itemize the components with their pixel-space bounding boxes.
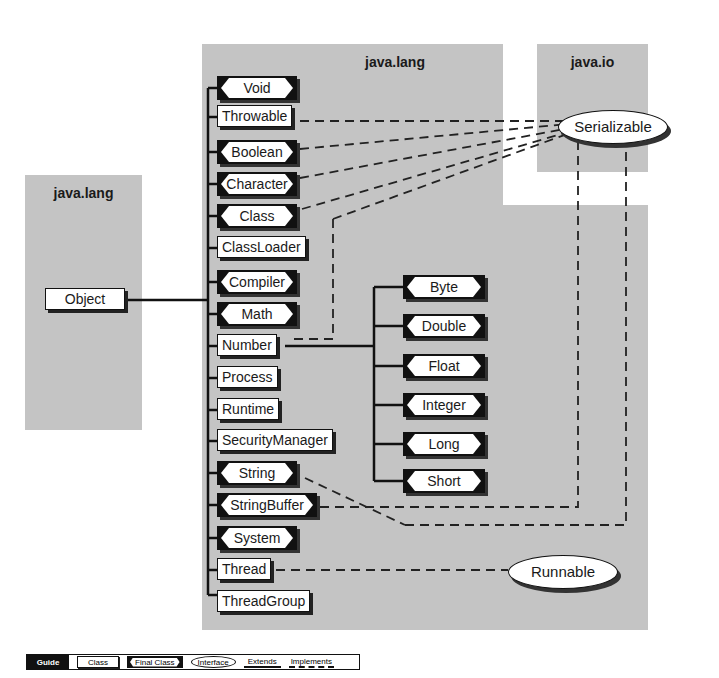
final-class-character[interactable]: Character: [217, 172, 297, 196]
interface-serializable[interactable]: Serializable: [558, 110, 668, 144]
legend-extends: Extends: [244, 656, 281, 668]
final-class-compiler[interactable]: Compiler: [217, 270, 297, 294]
class-runtime[interactable]: Runtime: [217, 398, 279, 420]
class-classloader[interactable]: ClassLoader: [217, 236, 306, 258]
class-number[interactable]: Number: [217, 334, 277, 356]
legend-implements: Implements: [289, 656, 334, 668]
interface-runnable[interactable]: Runnable: [508, 555, 618, 589]
class-thread[interactable]: Thread: [217, 558, 271, 580]
class-object[interactable]: Object: [45, 288, 125, 310]
final-class-string[interactable]: String: [217, 461, 297, 485]
final-class-stringbuffer[interactable]: StringBuffer: [217, 493, 317, 517]
legend-title: Guide: [27, 655, 69, 669]
class-throwable[interactable]: Throwable: [217, 105, 292, 127]
final-class-void[interactable]: Void: [217, 76, 297, 100]
final-class-short[interactable]: Short: [403, 469, 485, 493]
final-class-system[interactable]: System: [217, 526, 297, 550]
legend-final-class: Final Class: [127, 656, 183, 668]
class-process[interactable]: Process: [217, 366, 278, 388]
class-threadgroup[interactable]: ThreadGroup: [217, 590, 310, 612]
legend-interface: Interface: [191, 656, 236, 668]
final-class-float[interactable]: Float: [403, 354, 485, 378]
final-class-math[interactable]: Math: [217, 302, 297, 326]
final-class-class[interactable]: Class: [217, 204, 297, 228]
final-class-boolean[interactable]: Boolean: [217, 140, 297, 164]
final-class-integer[interactable]: Integer: [403, 393, 485, 417]
final-class-long[interactable]: Long: [403, 432, 485, 456]
class-securitymanager[interactable]: SecurityManager: [217, 429, 333, 451]
legend-guide: Guide Class Final Class Interface Extend…: [26, 654, 360, 670]
final-class-double[interactable]: Double: [403, 314, 485, 338]
legend-class: Class: [77, 656, 119, 668]
final-class-byte[interactable]: Byte: [403, 275, 485, 299]
